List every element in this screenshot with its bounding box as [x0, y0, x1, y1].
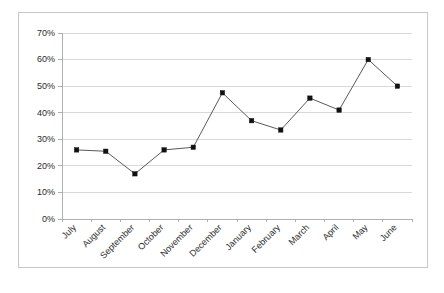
y-tick-label: 20%	[37, 161, 55, 171]
data-point-marker	[74, 148, 78, 152]
x-tick-label-july: July	[60, 222, 79, 241]
data-series-group	[77, 60, 398, 174]
y-tick-label: 30%	[37, 134, 55, 144]
y-tick-label: 40%	[37, 108, 55, 118]
y-axis-tick-labels: 0%10%20%30%40%50%60%70%	[37, 28, 55, 224]
y-tick-label: 70%	[37, 28, 55, 38]
data-point-marker	[279, 128, 283, 132]
data-point-marker	[104, 149, 108, 153]
data-point-marker	[220, 91, 224, 95]
line-chart-plot: 0%10%20%30%40%50%60%70% JulyAugustSeptem…	[0, 0, 444, 293]
series-line	[77, 60, 398, 174]
x-tick-label-august: August	[80, 222, 107, 249]
data-markers-group	[74, 57, 399, 176]
y-tick-label: 60%	[37, 54, 55, 64]
x-tick-label-may: May	[351, 222, 370, 241]
data-point-marker	[249, 118, 253, 122]
data-point-marker	[133, 172, 137, 176]
axis-group	[58, 33, 412, 219]
data-point-marker	[395, 84, 399, 88]
x-tick-label-february: February	[250, 222, 283, 255]
x-axis-tick-labels: JulyAugustSeptemberOctoberNovemberDecemb…	[60, 222, 399, 261]
gridlines-group	[62, 33, 412, 192]
data-point-marker	[191, 145, 195, 149]
chart-canvas: 0%10%20%30%40%50%60%70% JulyAugustSeptem…	[0, 0, 444, 293]
y-tick-label: 50%	[37, 81, 55, 91]
data-point-marker	[162, 148, 166, 152]
data-point-marker	[366, 57, 370, 61]
y-tick-label: 0%	[42, 214, 55, 224]
data-point-marker	[337, 108, 341, 112]
x-tick-label-june: June	[378, 222, 399, 243]
x-tick-label-april: April	[321, 222, 341, 242]
y-tick-label: 10%	[37, 187, 55, 197]
data-point-marker	[308, 96, 312, 100]
x-tick-label-march: March	[287, 222, 312, 247]
